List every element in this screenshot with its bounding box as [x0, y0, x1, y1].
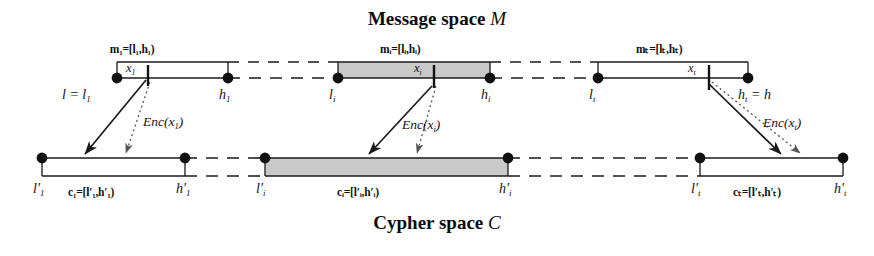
enc-label-t: Enc(xt)	[763, 116, 801, 132]
interval-tag-c1: c₁=[l′₁,h′₁)	[68, 187, 114, 199]
value-label-x1: x1	[126, 62, 136, 77]
endpoint-label-m1-left: l = l1	[62, 88, 91, 104]
page-title-cypher-space: Cypher space C	[0, 213, 874, 232]
endpoint-label-mt-right: ht = h	[738, 88, 771, 104]
endpoint-label-ci-right: h′i	[499, 182, 512, 198]
endpoint-label-mt-left: lt	[589, 88, 595, 104]
bracket-mt	[598, 62, 748, 78]
endpoint-label-m1-right: h1	[219, 88, 231, 104]
enc-arrow-1-solid	[85, 80, 146, 154]
cypher-space-symbol: C	[488, 212, 501, 233]
endpoint-label-mi-left: li	[329, 88, 335, 104]
bracket-c1	[42, 158, 185, 176]
interval-tag-mt: mₜ=[lₜ,hₜ)	[636, 44, 682, 56]
endpoint-label-ct-left: l′t	[691, 182, 700, 198]
value-label-xi: xi	[414, 62, 422, 77]
value-label-xt: xt	[688, 62, 696, 77]
message-space-text: Message space	[368, 8, 490, 29]
bracket-ct	[700, 158, 843, 176]
page-title-message-space: Message space M	[0, 9, 874, 28]
endpoint-label-ct-right: h′t	[834, 182, 847, 198]
interval-tag-ct: cₜ=[l′ₜ,h′ₜ)	[733, 187, 781, 199]
interval-tag-ci: cᵢ=[l′ᵢ,h′ᵢ)	[337, 187, 379, 199]
cypher-space-text: Cypher space	[373, 212, 488, 233]
enc-label-1: Enc(x1)	[143, 115, 183, 131]
endpoint-label-c1-left: l′1	[33, 182, 44, 198]
shade-ci	[265, 158, 508, 176]
endpoint-label-mi-right: hi	[481, 88, 491, 104]
endpoint-label-ci-left: l′i	[256, 182, 265, 198]
encryption-interval-diagram: Message space M Cypher space C m₁=[l₁,h₁…	[0, 0, 874, 256]
enc-label-i: Enc(xi)	[402, 118, 440, 134]
interval-tag-mi: mᵢ=[lᵢ,hᵢ)	[380, 44, 420, 56]
message-space-symbol: M	[490, 8, 506, 29]
interval-tag-m1: m₁=[l₁,h₁)	[110, 44, 155, 56]
endpoint-label-c1-right: h′1	[176, 182, 191, 198]
